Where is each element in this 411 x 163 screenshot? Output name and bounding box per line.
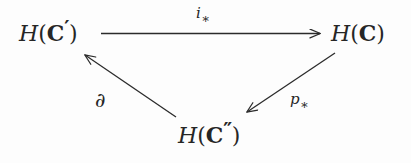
node-left-close-paren: ) [69, 21, 78, 46]
node-bottom-prime: ″ [223, 118, 231, 142]
node-bottom-functor: H [178, 123, 197, 148]
node-right-object: C [359, 20, 377, 46]
node-left-open-paren: ( [38, 21, 47, 46]
arrow-label-p-base: p [290, 90, 300, 108]
arrow-label-i-subscript: ∗ [201, 11, 210, 26]
node-h-c-double-prime: H(C″) [178, 120, 240, 147]
node-h-c: H(C) [331, 18, 385, 45]
node-h-c-prime: H(C′) [19, 18, 78, 45]
node-bottom-object: C [206, 122, 224, 148]
arrow-label-p-subscript: ∗ [300, 97, 309, 112]
node-bottom-open-paren: ( [197, 123, 206, 148]
node-left-object: C [47, 20, 65, 46]
node-left-functor: H [19, 21, 38, 46]
node-bottom-close-paren: ) [232, 123, 241, 148]
arrow-label-i-star: i∗ [196, 6, 210, 25]
node-right-close-paren: ) [376, 21, 385, 46]
commutative-diagram: H(C′) H(C) H(C″) i∗ p∗ ∂ [0, 0, 411, 163]
node-right-functor: H [331, 21, 350, 46]
arrow-label-partial-symbol: ∂ [95, 88, 105, 112]
arrow-label-p-star: p∗ [290, 92, 309, 111]
arrow-label-partial: ∂ [95, 90, 105, 110]
node-right-open-paren: ( [350, 21, 359, 46]
